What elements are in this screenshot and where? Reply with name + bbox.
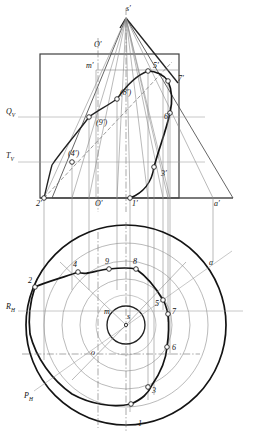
label-o: o <box>91 349 95 357</box>
label-7: 7 <box>172 308 176 316</box>
trace-label-Ph: PH <box>24 392 33 402</box>
marker-9p <box>87 115 92 120</box>
label-O-top: O′ <box>94 41 102 49</box>
label-2: 2 <box>28 277 32 285</box>
label-6p: 6′ <box>164 113 170 121</box>
marker-2 <box>33 285 38 290</box>
label-1: 1 <box>138 420 142 428</box>
label-5: 5 <box>155 300 159 308</box>
label-5p: 5′ <box>153 62 159 70</box>
label-8: 8 <box>133 258 137 266</box>
label-6: 6 <box>172 344 176 352</box>
label-3: 3 <box>152 387 156 395</box>
drawing-canvas: .thin { stroke:#8c8c8c; stroke-width:.6;… <box>0 0 253 441</box>
label-9p: (9′) <box>96 119 107 127</box>
marker-1 <box>129 402 134 407</box>
label-s: s <box>127 313 130 321</box>
plan-radial-lines <box>60 262 186 380</box>
trace-label-Tv: TV <box>6 152 14 162</box>
label-2p: 2′ <box>36 200 42 208</box>
marker-7 <box>166 312 171 317</box>
marker-8 <box>134 267 139 272</box>
label-3p: 3′ <box>161 170 167 178</box>
label-7p: 7′ <box>178 75 184 83</box>
cone-outline-triangle <box>52 18 233 198</box>
front-point-markers <box>42 69 173 201</box>
trace-label-Rh: RH <box>6 303 15 313</box>
cutting-plane-trace-front <box>44 62 172 198</box>
trace-label-Qv: QV <box>6 108 15 118</box>
marker-3p <box>152 165 157 170</box>
label-apex-sp: s′ <box>126 5 131 13</box>
plan-view-group <box>18 222 243 432</box>
cone-generatrices <box>44 18 213 198</box>
marker-7p <box>166 79 171 84</box>
marker-5 <box>161 298 166 303</box>
marker-s <box>124 323 127 326</box>
marker-9 <box>107 267 112 272</box>
label-ap: a′ <box>214 200 220 208</box>
marker-4 <box>76 270 81 275</box>
label-O-bottom: O′ <box>95 200 103 208</box>
marker-4p <box>70 160 75 165</box>
label-1p: 1′ <box>132 200 138 208</box>
label-4p: (4′) <box>68 150 79 158</box>
label-a: a <box>209 259 213 267</box>
marker-2p <box>42 196 47 201</box>
marker-6 <box>165 345 170 350</box>
marker-3 <box>146 385 151 390</box>
geometry-svg: .thin { stroke:#8c8c8c; stroke-width:.6;… <box>0 0 253 441</box>
label-8p: (8′) <box>120 89 131 97</box>
label-9: 9 <box>105 258 109 266</box>
label-4: 4 <box>73 261 77 269</box>
label-m: m <box>104 308 110 316</box>
marker-8p <box>115 97 120 102</box>
label-mp: m′ <box>86 62 94 70</box>
front-view-group <box>18 8 233 412</box>
marker-5p <box>146 69 151 74</box>
